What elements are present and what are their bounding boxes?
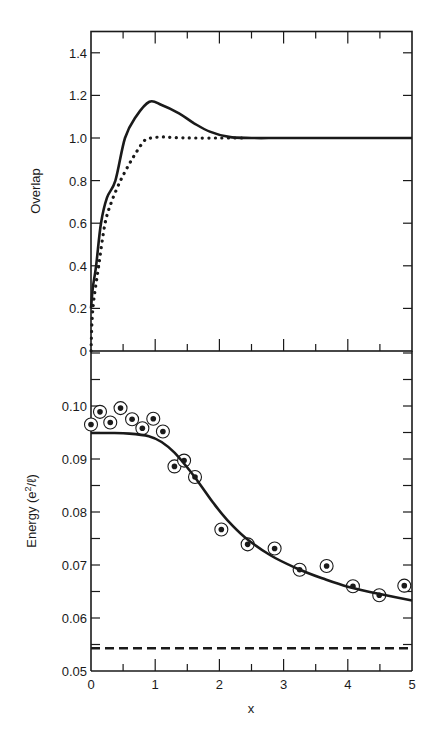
energy-y-tick-label: 0.06	[62, 611, 87, 626]
overlap-y-tick-label: 1.4	[69, 46, 87, 61]
data-point-marker	[156, 425, 169, 438]
energy-y-tick-label: 0.05	[62, 664, 87, 679]
energy-solid-curve	[91, 433, 412, 601]
data-point-marker	[114, 402, 127, 415]
overlap-solid-curve	[91, 101, 412, 308]
x-tick-label: 5	[408, 677, 415, 692]
figure: 00.20.40.60.81.01.21.4 0123450.050.060.0…	[0, 0, 439, 739]
energy-axis-title-main: Energy (e	[24, 491, 39, 547]
energy-y-tick-label: 0.07	[62, 558, 87, 573]
overlap-dotted-curve	[91, 137, 246, 351]
x-tick-label: 2	[216, 677, 223, 692]
data-point-marker	[268, 542, 281, 555]
energy-y-tick-label: 0.09	[62, 452, 87, 467]
overlap-y-tick-label: 0.6	[69, 216, 87, 231]
x-tick-label: 4	[344, 677, 351, 692]
overlap-y-tick-label: 0.2	[69, 301, 87, 316]
data-point-marker	[320, 560, 333, 573]
overlap-plot-frame	[91, 32, 412, 352]
overlap-plot: 00.20.40.60.81.01.21.4	[69, 32, 412, 360]
overlap-y-tick-label: 1.0	[69, 131, 87, 146]
data-point-marker	[126, 413, 139, 426]
overlap-axis-title: Overlap	[28, 168, 43, 214]
data-point-marker	[147, 412, 160, 425]
x-tick-label: 3	[280, 677, 287, 692]
overlap-y-tick-label: 0	[80, 344, 87, 359]
energy-y-tick-label: 0.08	[62, 505, 87, 520]
x-tick-label: 0	[87, 677, 94, 692]
data-point-marker	[93, 405, 106, 418]
energy-axis-title: Energy (e2/ℓ)	[23, 474, 39, 548]
energy-plot: 0123450.050.060.070.080.090.10	[62, 351, 416, 692]
data-point-marker	[85, 418, 98, 431]
overlap-y-tick-label: 1.2	[69, 88, 87, 103]
energy-y-tick-label: 0.10	[62, 399, 87, 414]
data-point-marker	[136, 422, 149, 435]
energy-axis-title-end: /ℓ)	[24, 474, 39, 486]
data-point-marker	[398, 579, 411, 592]
x-axis-title: x	[248, 701, 255, 716]
data-point-marker	[104, 416, 117, 429]
x-tick-label: 1	[152, 677, 159, 692]
data-point-marker	[215, 523, 228, 536]
overlap-y-tick-label: 0.4	[69, 259, 87, 274]
overlap-y-tick-label: 0.8	[69, 174, 87, 189]
